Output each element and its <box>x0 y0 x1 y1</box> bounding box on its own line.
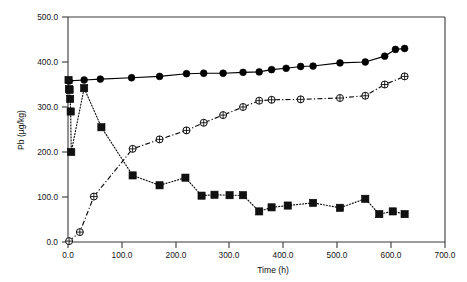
marker-filled-square <box>198 192 205 199</box>
marker-filled-circle <box>381 53 388 60</box>
marker-filled-circle <box>392 46 399 53</box>
series-filled-square-dotted <box>65 76 408 217</box>
y-axis-tick-labels: 0.0 100.0 200.0 300.0 400.0 500.0 <box>37 12 58 247</box>
marker-filled-circle <box>256 69 263 76</box>
y-tick-label-3: 300.0 <box>37 102 58 112</box>
marker-filled-circle <box>81 77 88 84</box>
marker-filled-square <box>268 204 275 211</box>
pb-vs-time-line-chart: 0.0 100.0 200.0 300.0 400.0 500.0 0.0 10… <box>0 0 467 282</box>
y-axis-title: Pb (µg/kg) <box>16 110 26 150</box>
marker-filled-square <box>389 208 396 215</box>
marker-filled-square <box>362 195 369 202</box>
marker-filled-square <box>156 182 163 189</box>
marker-filled-circle <box>337 60 344 67</box>
marker-filled-circle <box>97 76 104 83</box>
y-tick-label-4: 400.0 <box>37 57 58 67</box>
x-tick-label-2: 200.0 <box>166 250 187 260</box>
series-crossed-circle-dashdot <box>66 73 409 245</box>
marker-filled-square <box>66 86 73 93</box>
y-tick-label-1: 100.0 <box>37 192 58 202</box>
x-tick-label-4: 400.0 <box>273 250 294 260</box>
x-tick-label-5: 500.0 <box>327 250 348 260</box>
marker-filled-circle <box>128 74 135 81</box>
marker-filled-circle <box>220 70 227 77</box>
marker-filled-circle <box>268 66 275 73</box>
marker-filled-square <box>182 174 189 181</box>
marker-filled-square <box>68 148 75 155</box>
x-tick-label-6: 600.0 <box>381 250 402 260</box>
y-tick-label-0: 0.0 <box>46 237 58 247</box>
marker-filled-square <box>81 85 88 92</box>
marker-filled-square <box>67 108 74 115</box>
marker-filled-circle <box>401 45 408 52</box>
marker-filled-square <box>98 124 105 131</box>
marker-filled-square <box>67 95 74 102</box>
x-axis-ticks <box>68 242 445 248</box>
series-line-crossed-circle-dashdot <box>69 76 405 241</box>
y-tick-label-5: 500.0 <box>37 12 58 22</box>
y-tick-label-2: 200.0 <box>37 147 58 157</box>
chart-figure: 0.0 100.0 200.0 300.0 400.0 500.0 0.0 10… <box>0 0 467 282</box>
x-tick-label-1: 100.0 <box>112 250 133 260</box>
marker-filled-circle <box>283 65 290 72</box>
marker-filled-square <box>239 192 246 199</box>
marker-filled-circle <box>240 69 247 76</box>
x-axis-title: Time (h) <box>257 265 289 275</box>
marker-filled-square <box>309 199 316 206</box>
marker-filled-square <box>226 192 233 199</box>
marker-filled-circle <box>200 70 207 77</box>
x-axis-tick-labels: 0.0 100.0 200.0 300.0 400.0 500.0 600.0 … <box>62 250 456 260</box>
x-tick-label-7: 700.0 <box>435 250 456 260</box>
marker-filled-square <box>284 202 291 209</box>
marker-filled-square <box>129 172 136 179</box>
series-layer <box>65 45 408 245</box>
marker-filled-square <box>211 191 218 198</box>
marker-filled-square <box>65 76 72 83</box>
x-tick-label-3: 300.0 <box>219 250 240 260</box>
x-tick-label-0: 0.0 <box>62 250 74 260</box>
marker-filled-square <box>401 211 408 218</box>
y-axis-ticks <box>62 17 68 242</box>
marker-filled-circle <box>297 63 304 70</box>
marker-filled-square <box>256 208 263 215</box>
marker-filled-circle <box>156 73 163 80</box>
marker-filled-square <box>336 204 343 211</box>
series-filled-circle-solid <box>66 45 408 84</box>
marker-filled-circle <box>310 63 317 70</box>
marker-filled-circle <box>183 70 190 77</box>
marker-filled-circle <box>362 59 369 66</box>
series-line-filled-circle-solid <box>69 49 405 81</box>
series-line-filled-square-dotted <box>69 80 405 214</box>
marker-filled-square <box>376 211 383 218</box>
